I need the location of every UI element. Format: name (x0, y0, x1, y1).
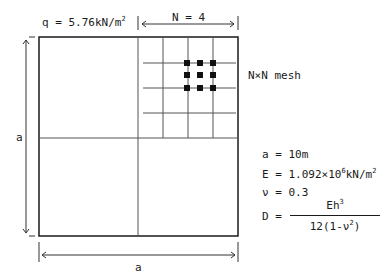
mesh-label: N×N mesh (248, 70, 301, 81)
plate-diagram (0, 0, 384, 277)
fraction-bar (290, 215, 380, 216)
D-num-text: Eh (326, 199, 339, 212)
mesh-count-label: N = 4 (170, 12, 207, 23)
param-E: E = 1.092×106kN/m2 (262, 168, 376, 180)
param-D-lhs: D = (262, 211, 282, 222)
load-label: q = 5.76kN/m2 (42, 16, 126, 28)
side-label-bottom: a (135, 262, 142, 273)
param-D-fraction: Eh3 12(1-ν2) (290, 198, 380, 233)
E-value: E = 1.092×10 (262, 168, 341, 181)
bottom-dimension-arrow (39, 242, 238, 262)
left-dimension-arrow (23, 37, 35, 236)
E-unit-exponent: 2 (372, 167, 376, 175)
load-value: q = 5.76kN/m (42, 16, 121, 29)
E-unit: kN/m (346, 168, 373, 181)
param-nu: ν = 0.3 (262, 187, 308, 198)
param-a: a = 10m (262, 149, 308, 160)
D-den-text: 12(1-ν (310, 220, 350, 233)
D-num-exponent: 3 (340, 198, 344, 206)
side-label-left: a (16, 132, 23, 143)
D-numerator: Eh3 (290, 198, 380, 212)
mesh-nodes (184, 60, 216, 91)
load-unit-exponent: 2 (121, 15, 125, 23)
D-den-close: ) (354, 220, 361, 233)
D-denominator: 12(1-ν2) (290, 219, 380, 233)
